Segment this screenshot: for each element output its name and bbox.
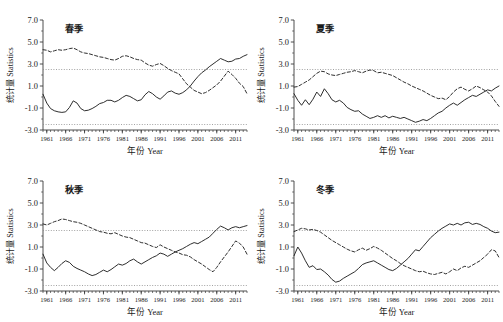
y-axis-title-group: 统计量 Statistics [256,208,266,264]
x-tick-label: 1986 [135,135,149,142]
y-tick-label: -1.0 [276,104,289,113]
y-tick-label: 1.0 [28,82,38,91]
panel-title-season: 春季 [64,23,84,34]
x-axis-title: 年份 Year [127,306,163,317]
x-tick-label: 1966 [310,296,324,303]
y-tick-label: 5.0 [28,38,38,47]
x-tick-label: 2011 [229,296,242,303]
x-tick-label: 1966 [310,135,324,142]
x-tick-label: 1981 [367,135,380,142]
series-line-uf [294,222,499,282]
seasonal-mann-kendall-figure: 7.05.03.01.0-1.0-3.019611966197119761981… [0,0,503,322]
x-tick-label: 1966 [59,135,73,142]
y-axis-title-group: 统计量 Statistics [5,208,15,264]
x-tick-label: 2006 [210,135,224,142]
chart-panel-bottom-right: 7.05.03.01.0-1.0-3.019611966197119761981… [251,161,503,322]
x-tick-label: 1976 [348,296,362,303]
x-tick-label: 1961 [40,296,53,303]
chart-panel-bottom-left: 7.05.03.01.0-1.0-3.019611966197119761981… [0,161,251,322]
y-tick-label: 1.0 [28,243,38,252]
x-tick-label: 1976 [97,135,111,142]
x-tick-label: 2006 [210,296,224,303]
y-axis-title: 统计量 Statistics [256,47,266,103]
y-tick-label: 5.0 [279,199,289,208]
y-tick-label: 7.0 [28,177,38,186]
y-tick-label: 3.0 [279,60,289,69]
y-tick-label: -1.0 [25,104,38,113]
y-axis-title: 统计量 Statistics [5,47,15,103]
y-tick-label: -3.0 [276,287,289,296]
series-line-ub [294,70,499,106]
x-tick-label: 1996 [424,296,438,303]
x-tick-label: 2011 [481,296,494,303]
y-tick-label: 5.0 [279,38,289,47]
y-axis-title: 统计量 Statistics [5,208,15,264]
series-line-ub [43,48,247,94]
y-tick-label: 7.0 [279,177,289,186]
x-tick-label: 1991 [154,135,167,142]
chart-canvas: 7.05.03.01.0-1.0-3.019611966197119761981… [251,161,503,322]
x-tick-label: 2011 [481,135,494,142]
x-tick-label: 1986 [386,296,400,303]
y-tick-label: -3.0 [276,126,289,135]
chart-canvas: 7.05.03.01.0-1.0-3.019611966197119761981… [0,161,251,322]
y-axis-title: 统计量 Statistics [256,208,266,264]
x-tick-label: 1961 [40,135,53,142]
x-axis-title: 年份 Year [379,145,415,156]
y-tick-label: -1.0 [25,265,38,274]
chart-canvas: 7.05.03.01.0-1.0-3.019611966197119761981… [0,0,251,161]
x-tick-label: 1991 [154,296,167,303]
x-tick-label: 1976 [348,135,362,142]
x-tick-label: 1961 [291,296,304,303]
series-line-uf [294,86,499,122]
y-tick-label: -3.0 [25,126,38,135]
series-line-ub [294,228,499,274]
x-tick-label: 1971 [78,296,91,303]
y-axis-title-group: 统计量 Statistics [256,47,266,103]
chart-panel-top-right: 7.05.03.01.0-1.0-3.019611966197119761981… [251,0,503,161]
y-tick-label: 1.0 [279,82,289,91]
x-tick-label: 1976 [97,296,111,303]
x-tick-label: 1986 [135,296,149,303]
x-tick-label: 1971 [329,135,342,142]
y-tick-label: 3.0 [28,60,38,69]
y-tick-label: 1.0 [279,243,289,252]
panel-title-season: 冬季 [316,184,335,195]
x-tick-label: 2001 [443,296,456,303]
y-tick-label: 7.0 [28,16,38,25]
x-tick-label: 1981 [367,296,380,303]
y-tick-label: 3.0 [28,221,38,230]
panel-title-season: 秋季 [64,184,84,195]
x-tick-label: 1991 [405,296,418,303]
x-tick-label: 1996 [172,296,186,303]
panel-title-season: 夏季 [315,23,335,34]
x-tick-label: 1991 [405,135,418,142]
x-tick-label: 1981 [116,296,129,303]
y-tick-label: -1.0 [276,265,289,274]
x-tick-label: 1996 [172,135,186,142]
x-tick-label: 2001 [443,135,456,142]
x-tick-label: 2006 [462,135,476,142]
x-tick-label: 1971 [329,296,342,303]
x-tick-label: 1996 [424,135,438,142]
x-tick-label: 2011 [229,135,242,142]
x-tick-label: 1981 [116,135,129,142]
y-axis-title-group: 统计量 Statistics [5,47,15,103]
x-tick-label: 1966 [59,296,73,303]
x-axis-title: 年份 Year [379,306,415,317]
x-axis-title: 年份 Year [127,145,163,156]
x-tick-label: 1971 [78,135,91,142]
x-tick-label: 2006 [462,296,476,303]
y-tick-label: -3.0 [25,287,38,296]
series-line-ub [43,219,247,272]
y-tick-label: 7.0 [279,16,289,25]
y-tick-label: 5.0 [28,199,38,208]
x-tick-label: 2001 [191,296,204,303]
chart-panel-top-left: 7.05.03.01.0-1.0-3.019611966197119761981… [0,0,251,161]
x-tick-label: 2001 [191,135,204,142]
x-tick-label: 1961 [291,135,304,142]
x-tick-label: 1986 [386,135,400,142]
y-tick-label: 3.0 [279,221,289,230]
chart-canvas: 7.05.03.01.0-1.0-3.019611966197119761981… [251,0,503,161]
